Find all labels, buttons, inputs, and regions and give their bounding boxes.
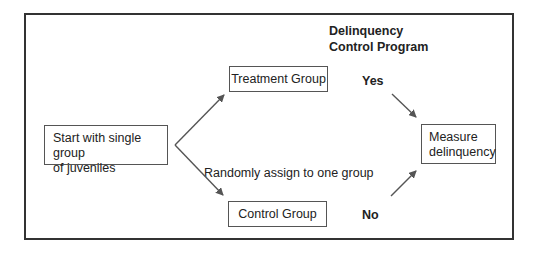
arrow-to-treatment	[175, 95, 224, 145]
arrow-yes-to-measure	[392, 94, 416, 117]
arrow-no-to-measure	[391, 171, 416, 196]
arrows-layer	[0, 0, 536, 253]
arrow-to-control	[175, 145, 223, 195]
